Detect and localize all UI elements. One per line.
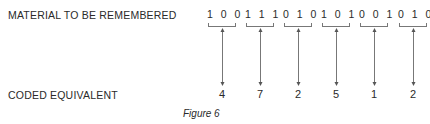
- double-arrow-icon: [257, 28, 264, 86]
- group-bracket: [322, 23, 350, 27]
- group-bracket: [208, 23, 236, 27]
- double-arrow-icon: [410, 28, 417, 86]
- group-bracket: [284, 23, 312, 27]
- binary-group: 0 1 0: [283, 8, 313, 20]
- group-bracket: [360, 23, 388, 27]
- material-label: MATERIAL TO BE REMEMBERED: [8, 9, 177, 21]
- coded-digit: 2: [398, 88, 428, 100]
- binary-group: 1 0 0: [207, 8, 237, 20]
- coded-digit: 5: [321, 88, 351, 100]
- coded-digit: 2: [283, 88, 313, 100]
- double-arrow-icon: [295, 28, 302, 86]
- group-bracket: [246, 23, 274, 27]
- group-bracket: [399, 23, 427, 27]
- double-arrow-icon: [333, 28, 340, 86]
- binary-group: 1 1 1: [245, 8, 275, 20]
- binary-group: 1 0 1: [321, 8, 351, 20]
- coded-equivalent-label: CODED EQUIVALENT: [8, 89, 118, 101]
- coded-digit: 7: [245, 88, 275, 100]
- coded-digit: 4: [207, 88, 237, 100]
- binary-group: 0 1 0: [398, 8, 428, 20]
- double-arrow-icon: [219, 28, 226, 86]
- binary-group: 0 0 1: [359, 8, 389, 20]
- coded-digit: 1: [359, 88, 389, 100]
- figure-caption: Figure 6: [183, 108, 220, 119]
- double-arrow-icon: [371, 28, 378, 86]
